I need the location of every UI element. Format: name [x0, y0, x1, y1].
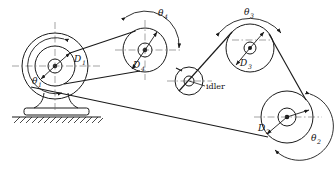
label-idler-text: idler — [206, 82, 225, 91]
label-theta3: θ 3 — [244, 7, 254, 19]
label-idler: idler — [206, 82, 225, 91]
belt-drive-diagram: D 1 θ 1 D 4 θ 4 idler D 3 — [0, 0, 336, 172]
label-d1-subscript: 1 — [82, 59, 86, 66]
label-d2-subscript: 2 — [265, 128, 270, 135]
label-d3-subscript: 3 — [248, 63, 252, 70]
label-d3: D 3 — [239, 58, 252, 70]
pedestal-base — [12, 93, 101, 117]
label-theta1-subscript: 1 — [38, 81, 42, 88]
label-theta4: θ 4 — [158, 8, 168, 20]
label-d4: D 4 — [132, 60, 145, 72]
label-d2-text: D — [257, 123, 265, 133]
angle-arc-theta3 — [220, 18, 281, 33]
diagram-canvas: D 1 θ 1 D 4 θ 4 idler D 3 — [0, 0, 336, 172]
label-theta2-subscript: 2 — [316, 138, 321, 145]
belt-p1-p2 — [31, 87, 268, 137]
pulley-4-centerlines — [115, 20, 180, 80]
label-theta2: θ 2 — [311, 133, 321, 145]
label-d4-subscript: 4 — [140, 65, 145, 72]
ground-hatching — [14, 117, 103, 123]
label-d3-text: D — [239, 58, 247, 68]
label-d4-text: D — [132, 60, 140, 70]
angle-arc-theta2 — [275, 94, 333, 160]
labels-layer: D 1 θ 1 D 4 θ 4 idler D 3 — [32, 7, 321, 145]
label-theta3-subscript: 3 — [250, 12, 254, 19]
dimension-d2 — [267, 110, 309, 134]
label-d2: D 2 — [257, 123, 270, 135]
label-theta4-subscript: 4 — [163, 13, 168, 20]
label-d1-text: D — [73, 54, 81, 64]
belt-p3-p2 — [269, 34, 306, 100]
